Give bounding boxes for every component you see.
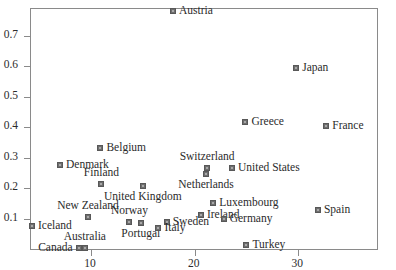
data-point-marker [57, 162, 63, 168]
data-point-label: Germany [230, 213, 273, 225]
data-point-label: Norway [111, 204, 148, 216]
y-axis-tick-label: 0.6 [0, 59, 18, 71]
data-point-marker [98, 181, 104, 187]
data-point-label: Canada [38, 242, 72, 254]
data-point-marker [323, 123, 329, 129]
data-point-marker [97, 145, 103, 151]
data-point-label: Italy [164, 223, 185, 235]
x-axis-tick-label: 30 [277, 258, 317, 270]
x-axis-tick-label: 10 [70, 258, 110, 270]
data-point-marker [242, 119, 248, 125]
data-point-label: Belgium [106, 142, 146, 154]
data-point-marker [76, 245, 82, 251]
data-point-label: New Zealand [57, 199, 119, 211]
scatter-plot-figure: AustriaJapanGreeceFranceBelgiumDenmarkSw… [0, 0, 396, 270]
data-point-marker [155, 225, 161, 231]
y-axis-tick-label: 0.5 [0, 90, 18, 102]
data-point-marker [204, 165, 210, 171]
data-point-label: Japan [302, 63, 328, 75]
data-point-label: United States [238, 162, 300, 174]
data-point-label: Turkey [252, 240, 285, 252]
data-point-label: Australia [64, 230, 106, 242]
data-point-marker [82, 245, 88, 251]
y-axis-tick [24, 188, 31, 189]
x-axis-tick [195, 249, 196, 256]
y-axis-tick-label: 0.4 [0, 120, 18, 132]
data-point-marker [138, 220, 144, 226]
data-point-marker [229, 165, 235, 171]
data-point-label: Luxembourg [219, 197, 278, 209]
data-point-label: Austria [179, 5, 213, 17]
plot-area: AustriaJapanGreeceFranceBelgiumDenmarkSw… [30, 8, 378, 250]
y-axis-tick [24, 158, 31, 159]
y-axis-tick [24, 66, 31, 67]
data-point-marker [203, 171, 209, 177]
data-point-label: Finland [84, 167, 119, 179]
y-axis-tick [24, 127, 31, 128]
y-axis-tick-label: 0.1 [0, 212, 18, 224]
data-point-marker [140, 183, 146, 189]
x-axis-tick-label: 20 [174, 258, 214, 270]
data-point-label: Greece [251, 116, 284, 128]
y-axis-tick [24, 219, 31, 220]
y-axis-tick [24, 36, 31, 37]
data-point-label: France [332, 120, 363, 132]
data-point-marker [85, 214, 91, 220]
data-point-marker [170, 8, 176, 14]
data-point-marker [210, 200, 216, 206]
y-axis-tick-label: 0.2 [0, 181, 18, 193]
data-point-marker [221, 216, 227, 222]
data-point-label: Switzerland [180, 150, 235, 162]
data-point-marker [29, 223, 35, 229]
y-axis-tick-label: 0.7 [0, 29, 18, 41]
data-point-marker [126, 219, 132, 225]
data-point-marker [243, 242, 249, 248]
data-point-label: Spain [324, 205, 350, 217]
x-axis-tick [298, 249, 299, 256]
data-point-marker [293, 65, 299, 71]
data-point-label: Netherlands [178, 179, 234, 191]
y-axis-tick-label: 0.3 [0, 151, 18, 163]
y-axis-tick [24, 97, 31, 98]
data-point-marker [315, 207, 321, 213]
x-axis-tick [91, 249, 92, 256]
